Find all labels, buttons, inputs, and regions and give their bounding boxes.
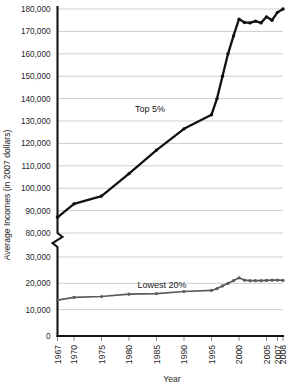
x-tick-label: 1970 bbox=[69, 345, 79, 364]
y-axis-with-break bbox=[53, 7, 63, 336]
data-point-marker bbox=[72, 296, 75, 299]
data-point-marker bbox=[281, 279, 284, 282]
x-tick-label: 2000 bbox=[234, 345, 244, 364]
y-tick-label: 80,000 bbox=[25, 229, 50, 238]
data-point-marker bbox=[276, 279, 279, 282]
x-tick-label: 1990 bbox=[179, 345, 189, 364]
data-point-marker bbox=[259, 21, 262, 24]
y-tick-label: 100,000 bbox=[21, 184, 51, 193]
data-point-marker bbox=[56, 299, 59, 302]
y-tick-label: 170,000 bbox=[21, 27, 51, 36]
data-point-marker bbox=[254, 279, 257, 282]
y-axis-title: Average Incomes (in 2007 dollars) bbox=[2, 130, 12, 261]
chart-canvas: 80,00090,000100,000110,000120,000130,000… bbox=[0, 0, 291, 389]
data-point-marker bbox=[276, 11, 279, 14]
data-point-marker bbox=[210, 289, 213, 292]
data-point-marker bbox=[254, 19, 257, 22]
data-point-marker bbox=[265, 279, 268, 282]
x-tick-label: 1967 bbox=[53, 345, 63, 364]
data-point-marker bbox=[182, 127, 185, 130]
data-point-marker bbox=[270, 19, 273, 22]
data-point-marker bbox=[100, 194, 103, 197]
series-lowest20-annotation: Lowest 20% bbox=[137, 280, 186, 290]
series-top5-line bbox=[58, 9, 284, 217]
data-point-marker bbox=[265, 15, 268, 18]
y-tick-label: 30,000 bbox=[25, 253, 50, 262]
data-point-marker bbox=[215, 97, 218, 100]
income-inequality-line-chart: 80,00090,000100,000110,000120,000130,000… bbox=[0, 0, 291, 389]
data-point-marker bbox=[155, 148, 158, 151]
data-point-marker bbox=[243, 279, 246, 282]
data-point-marker bbox=[56, 216, 59, 219]
y-tick-label: 150,000 bbox=[21, 72, 51, 81]
data-point-marker bbox=[232, 279, 235, 282]
data-point-marker bbox=[237, 17, 240, 20]
y-tick-label: 130,000 bbox=[21, 117, 51, 126]
y-tick-label: 90,000 bbox=[25, 207, 50, 216]
y-tick-label: 160,000 bbox=[21, 50, 51, 59]
y-axis-tick-labels: 80,00090,000100,000110,000120,000130,000… bbox=[21, 5, 51, 341]
series-top5-markers bbox=[56, 7, 285, 219]
x-tick-label: 1975 bbox=[97, 345, 107, 364]
data-point-marker bbox=[243, 21, 246, 24]
data-point-marker bbox=[232, 34, 235, 37]
x-tick-label: 1980 bbox=[124, 345, 134, 364]
x-tick-label: 1995 bbox=[207, 345, 217, 364]
data-point-marker bbox=[127, 293, 130, 296]
data-point-marker bbox=[127, 172, 130, 175]
data-point-marker bbox=[248, 279, 251, 282]
y-tick-label: 180,000 bbox=[21, 5, 51, 14]
data-point-marker bbox=[215, 287, 218, 290]
y-tick-label: 110,000 bbox=[22, 162, 51, 171]
data-point-marker bbox=[100, 295, 103, 298]
y-tick-label: 0 bbox=[46, 332, 51, 341]
x-tick-label: 2005 bbox=[262, 345, 272, 364]
data-point-marker bbox=[221, 284, 224, 287]
x-axis-tick-labels: 1967197019751980198519901995200020052007… bbox=[53, 345, 289, 364]
data-point-marker bbox=[72, 202, 75, 205]
x-tick-label: 2008 bbox=[278, 345, 288, 364]
data-point-marker bbox=[182, 290, 185, 293]
data-point-marker bbox=[155, 292, 158, 295]
data-point-marker bbox=[226, 282, 229, 285]
data-point-marker bbox=[210, 113, 213, 116]
x-axis-title: Year bbox=[163, 374, 181, 384]
x-tick-label: 1985 bbox=[152, 345, 162, 364]
series-top5-annotation: Top 5% bbox=[135, 104, 165, 114]
data-point-marker bbox=[248, 21, 251, 24]
y-tick-label: 20,000 bbox=[25, 279, 50, 288]
data-point-marker bbox=[221, 75, 224, 78]
y-tick-label: 10,000 bbox=[25, 306, 50, 315]
y-tick-label: 140,000 bbox=[21, 95, 51, 104]
data-point-marker bbox=[281, 7, 284, 10]
data-point-marker bbox=[237, 276, 240, 279]
y-tick-label: 120,000 bbox=[21, 139, 51, 148]
data-point-marker bbox=[259, 279, 262, 282]
data-point-marker bbox=[270, 279, 273, 282]
data-point-marker bbox=[226, 52, 229, 55]
